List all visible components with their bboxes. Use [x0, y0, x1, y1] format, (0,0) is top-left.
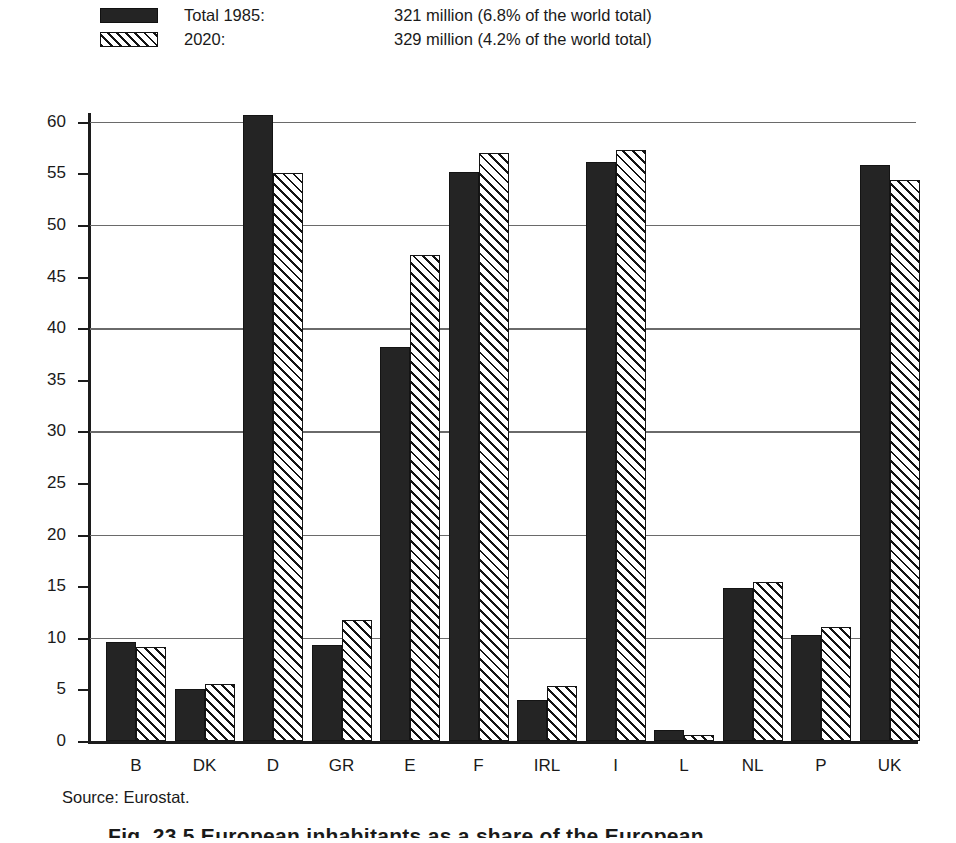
source-note: Source: Eurostat.: [62, 788, 189, 807]
bar-I-2020[interactable]: [616, 150, 646, 741]
y-tick-label-35: 35: [20, 370, 66, 390]
bar-group-B[interactable]: [106, 642, 166, 741]
bar-E-1985[interactable]: [380, 347, 410, 741]
bar-I-1985[interactable]: [586, 162, 616, 741]
legend-row-2020: 2020: 329 million (4.2% of the world tot…: [100, 28, 860, 50]
bar-L-2020[interactable]: [684, 735, 714, 741]
y-tick-label-45: 45: [20, 267, 66, 287]
bar-chart-plot: 051015202530354045505560 BDKDGREFIRLILNL…: [0, 100, 956, 750]
figure-caption: Fig. 23.5 European inhabitants as a shar…: [108, 824, 704, 843]
bar-GR-2020[interactable]: [342, 620, 372, 741]
bar-groups: [88, 100, 918, 744]
y-tick-label-55: 55: [20, 163, 66, 183]
y-tick-label-10: 10: [20, 628, 66, 648]
bar-B-1985[interactable]: [106, 642, 136, 741]
bar-D-1985[interactable]: [243, 115, 273, 741]
y-tick-label-40: 40: [20, 318, 66, 338]
bar-group-DK[interactable]: [175, 684, 235, 741]
bar-group-UK[interactable]: [860, 165, 920, 741]
y-tick-label-50: 50: [20, 215, 66, 235]
bar-UK-2020[interactable]: [890, 180, 920, 741]
bar-group-F[interactable]: [449, 153, 509, 741]
legend-label-2020: 2020:: [184, 30, 394, 49]
y-tick-label-30: 30: [20, 421, 66, 441]
y-tick-label-25: 25: [20, 473, 66, 493]
legend-label-1985: Total 1985:: [184, 6, 394, 25]
bar-group-P[interactable]: [791, 627, 851, 741]
bar-NL-1985[interactable]: [723, 588, 753, 741]
bar-NL-2020[interactable]: [753, 582, 783, 741]
y-axis-tick-labels: 051015202530354045505560: [14, 100, 66, 750]
bar-DK-2020[interactable]: [205, 684, 235, 741]
legend-row-1985: Total 1985: 321 million (6.8% of the wor…: [100, 4, 860, 26]
bar-group-NL[interactable]: [723, 582, 783, 741]
y-tick-label-20: 20: [20, 525, 66, 545]
y-tick-label-60: 60: [20, 112, 66, 132]
y-tick-label-15: 15: [20, 576, 66, 596]
x-tick-label-UK: UK: [850, 756, 930, 776]
bar-group-E[interactable]: [380, 255, 440, 741]
bar-B-2020[interactable]: [136, 647, 166, 741]
bar-group-D[interactable]: [243, 115, 303, 741]
bar-D-2020[interactable]: [273, 173, 303, 741]
bar-L-1985[interactable]: [654, 730, 684, 741]
chart-legend: Total 1985: 321 million (6.8% of the wor…: [100, 4, 860, 52]
bar-group-L[interactable]: [654, 730, 714, 741]
legend-value-1985: 321 million (6.8% of the world total): [394, 6, 652, 25]
diagonal-hatch-swatch-icon: [100, 32, 158, 47]
solid-black-swatch-icon: [100, 8, 158, 23]
bar-UK-1985[interactable]: [860, 165, 890, 741]
bar-P-1985[interactable]: [791, 635, 821, 741]
bar-P-2020[interactable]: [821, 627, 851, 741]
legend-value-2020: 329 million (4.2% of the world total): [394, 30, 652, 49]
bar-group-GR[interactable]: [312, 620, 372, 741]
bar-IRL-1985[interactable]: [517, 700, 547, 741]
y-tick-label-5: 5: [20, 679, 66, 699]
y-tick-label-0: 0: [20, 731, 66, 751]
bar-E-2020[interactable]: [410, 255, 440, 741]
bar-group-I[interactable]: [586, 150, 646, 741]
bar-GR-1985[interactable]: [312, 645, 342, 741]
bar-group-IRL[interactable]: [517, 686, 577, 741]
bar-F-1985[interactable]: [449, 172, 479, 741]
bar-DK-1985[interactable]: [175, 689, 205, 741]
bar-F-2020[interactable]: [479, 153, 509, 741]
bar-IRL-2020[interactable]: [547, 686, 577, 741]
